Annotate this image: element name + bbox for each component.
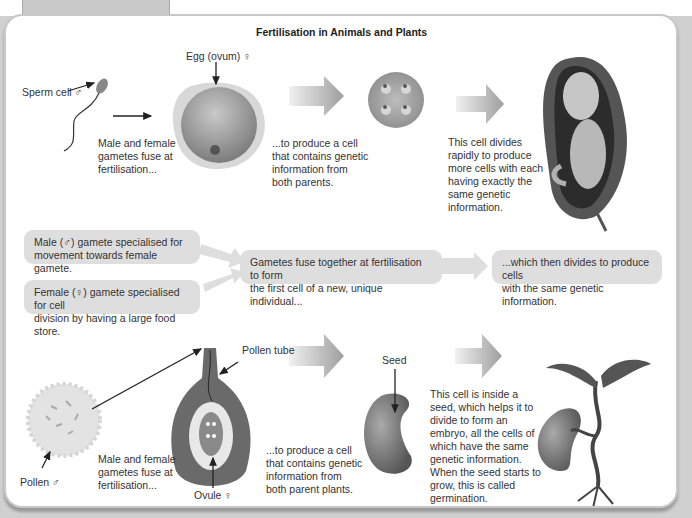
seed-icon — [364, 394, 412, 474]
pollen-grain-icon — [28, 384, 100, 456]
animal-divides-text: This cell dividesrapidly to producemore … — [448, 136, 543, 214]
seedling-icon — [538, 360, 651, 506]
big-arrow-icon — [289, 76, 344, 116]
plant-seed-text: This cell is inside aseed, which helps i… — [430, 388, 541, 505]
female-gamete-box: Female (♀) gamete specialised for celldi… — [24, 280, 200, 314]
big-arrow-icon — [456, 84, 504, 124]
pollen-label: Pollen ♂ — [20, 476, 60, 489]
egg-label: Egg (ovum) ♀ — [186, 50, 251, 63]
section-tab-label: Fertilisation — [23, 0, 169, 5]
box-arrow-icon — [199, 244, 244, 268]
fetus-icon — [543, 57, 627, 231]
ovary-icon — [171, 348, 250, 486]
dividing-cell-icon — [368, 72, 424, 128]
plant-produce-text: ...to produce a cellthat contains geneti… — [266, 444, 362, 496]
plant-fuse-text: Male and femalegametes fuse atfertilisat… — [98, 453, 176, 492]
division-box: ...which then divides to produce cellswi… — [492, 250, 662, 284]
box-arrow-icon — [442, 252, 488, 280]
figure-panel: Fertilisation in Animals and Plants — [4, 14, 678, 508]
animal-fuse-text: Male and femalegametes fuse atfertilisat… — [98, 137, 176, 176]
seed-label: Seed — [382, 354, 407, 367]
pollen-tube-label: Pollen tube — [242, 344, 295, 357]
ovule-label: Ovule ♀ — [194, 489, 232, 502]
box-arrow-icon — [203, 268, 244, 292]
sperm-label: Sperm cell ♂ — [22, 86, 82, 99]
section-tab: Fertilisation — [22, 0, 170, 15]
big-arrow-icon — [455, 334, 502, 378]
egg-cell-icon — [173, 83, 265, 169]
big-arrow-icon — [289, 334, 344, 378]
fusion-box: Gametes fuse together at fertilisation t… — [240, 250, 442, 284]
animal-produce-text: ...to produce a cellthat contains geneti… — [272, 137, 368, 189]
male-gamete-box: Male (♂) gamete specialised formovement … — [24, 230, 200, 264]
